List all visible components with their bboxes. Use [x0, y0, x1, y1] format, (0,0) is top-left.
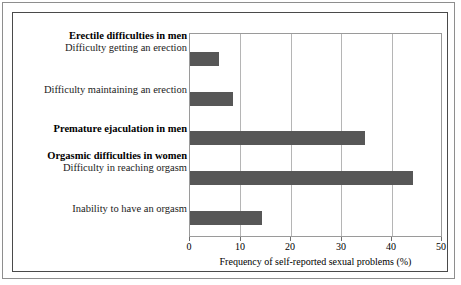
category-label-difficulty-getting-erection: Erectile difficulties in men Difficulty …	[0, 30, 187, 55]
category-label-difficulty-reaching-orgasm: Orgasmic difficulties in women Difficult…	[0, 150, 187, 175]
category-name: Difficulty getting an erection	[0, 42, 187, 54]
x-axis-title: Frequency of self-reported sexual proble…	[189, 256, 442, 267]
bar-difficulty-getting-erection	[190, 52, 219, 66]
tick-label-50: 50	[426, 241, 456, 252]
category-label-difficulty-maintaining-erection: Difficulty maintaining an erection	[0, 84, 187, 96]
tick-label-0: 0	[174, 241, 204, 252]
category-name: Difficulty maintaining an erection	[0, 84, 187, 96]
category-label-inability-to-orgasm: Inability to have an orgasm	[0, 203, 187, 215]
figure-inner-border: Erectile difficulties in men Difficulty …	[12, 12, 448, 272]
category-name: Inability to have an orgasm	[0, 203, 187, 215]
tick-label-40: 40	[376, 241, 406, 252]
tick-label-30: 30	[326, 241, 356, 252]
gridline-40	[392, 34, 393, 236]
bar-chart: Erectile difficulties in men Difficulty …	[13, 13, 449, 273]
tick-label-10: 10	[225, 241, 255, 252]
plot-area	[189, 33, 442, 237]
group-header-premature-ejaculation: Premature ejaculation in men	[0, 123, 187, 135]
category-name: Difficulty in reaching orgasm	[0, 162, 187, 174]
figure-outer-border: Erectile difficulties in men Difficulty …	[2, 2, 455, 279]
group-header-erectile-difficulties: Erectile difficulties in men	[0, 30, 187, 42]
bar-premature-ejaculation	[190, 131, 365, 145]
group-header-orgasmic-difficulties: Orgasmic difficulties in women	[0, 150, 187, 162]
bar-difficulty-maintaining-erection	[190, 92, 233, 106]
category-label-premature-ejaculation: Premature ejaculation in men	[0, 123, 187, 135]
bar-difficulty-reaching-orgasm	[190, 171, 413, 185]
tick-label-20: 20	[275, 241, 305, 252]
bar-inability-to-orgasm	[190, 211, 262, 225]
